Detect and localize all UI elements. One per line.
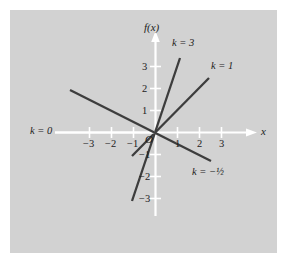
x-tick-label--2: −2: [105, 139, 116, 150]
line-label-k-neg-half: k = −½: [192, 167, 224, 178]
y-tick-label-2: 2: [142, 84, 147, 95]
line-label-k1: k = 1: [211, 61, 233, 72]
x-tick-label-3: 3: [219, 139, 224, 150]
figure-root: f(x) x O −3 −2 −1 1 2 3 3 2 1 −1 −2 −3 k…: [0, 0, 287, 263]
line-label-k0: k = 0: [30, 126, 52, 137]
origin-label: O: [145, 134, 153, 145]
x-tick-label-1: 1: [175, 139, 180, 150]
x-axis-label: x: [261, 126, 266, 137]
y-axis-label: f(x): [144, 22, 159, 33]
y-tick-label-1: 1: [142, 106, 147, 117]
x-tick-label--3: −3: [83, 139, 94, 150]
y-tick-label--3: −3: [139, 194, 150, 205]
x-tick-label--1: −1: [127, 139, 138, 150]
y-tick-label-3: 3: [142, 62, 147, 73]
y-tick-label--1: −1: [139, 150, 150, 161]
line-label-k3: k = 3: [172, 38, 194, 49]
x-tick-label-2: 2: [197, 139, 202, 150]
y-tick-label--2: −2: [139, 172, 150, 183]
